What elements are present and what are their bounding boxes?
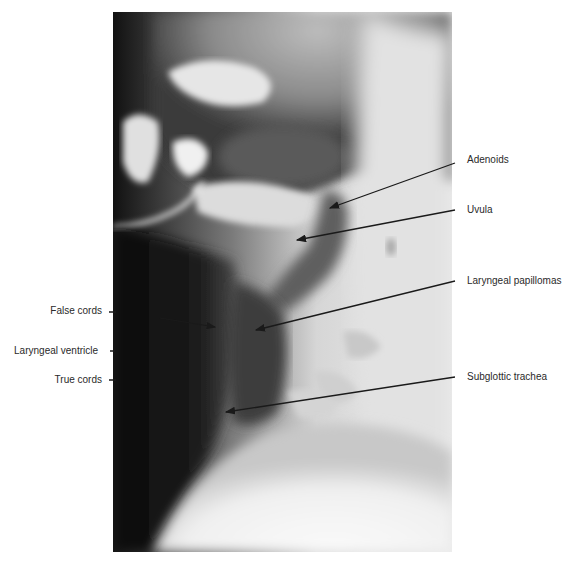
radiograph-figure: Adenoids Uvula Laryngeal papillomas Subg… [0, 0, 572, 563]
label-laryngeal-ventricle: Laryngeal ventricle [14, 345, 98, 357]
label-adenoids: Adenoids [467, 154, 509, 166]
lateral-neck-xray-image [113, 12, 452, 552]
label-true-cords: True cords [55, 374, 102, 386]
label-uvula: Uvula [467, 204, 493, 216]
label-laryngeal-papillomas: Laryngeal papillomas [467, 275, 562, 287]
label-false-cords: False cords [50, 305, 102, 317]
label-subglottic-trachea: Subglottic trachea [467, 371, 547, 383]
